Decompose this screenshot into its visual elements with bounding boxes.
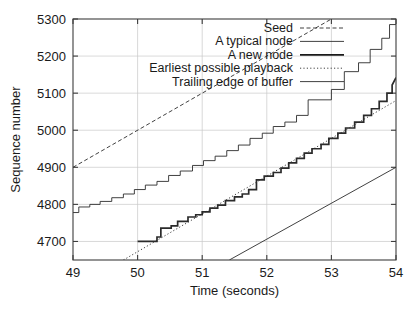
y-tick-label: 5000 [37, 123, 66, 138]
chart-figure: 4700480049005000510052005300 49505152535… [0, 0, 419, 311]
legend-label-new-node: A new node [228, 48, 293, 62]
y-axis-title: Sequence number [8, 86, 23, 193]
x-tick-label: 51 [195, 265, 209, 280]
y-tick-label: 4700 [37, 234, 66, 249]
legend-label-typical-node: A typical node [215, 34, 293, 48]
x-axis-title: Time (seconds) [190, 283, 279, 298]
x-tick-label: 54 [389, 265, 403, 280]
legend-label-earliest-playback: Earliest possible playback [149, 61, 294, 75]
legend-label-seed: Seed [264, 21, 293, 35]
y-tick-label: 4800 [37, 197, 66, 212]
x-tick-label: 50 [130, 265, 144, 280]
y-tick-label: 5300 [37, 12, 66, 27]
x-tick-label: 52 [260, 265, 274, 280]
chart-background [0, 0, 419, 311]
x-tick-label: 53 [324, 265, 338, 280]
y-tick-label: 5100 [37, 86, 66, 101]
y-tick-label: 4900 [37, 160, 66, 175]
y-tick-label: 5200 [37, 49, 66, 64]
legend-label-trailing-edge: Trailing edge of buffer [172, 75, 293, 89]
x-tick-label: 49 [66, 265, 80, 280]
sequence-number-vs-time-chart: 4700480049005000510052005300 49505152535… [0, 0, 419, 311]
